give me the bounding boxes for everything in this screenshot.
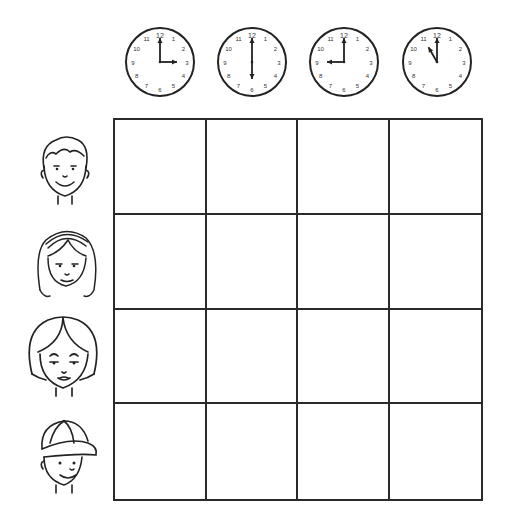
clock-number: 12 (433, 32, 441, 39)
face-boy-icon (30, 128, 100, 208)
grid-cell[interactable] (390, 404, 482, 499)
grid-cell[interactable] (115, 120, 207, 215)
clock-number: 12 (340, 32, 348, 39)
grid-cell[interactable] (207, 215, 299, 310)
grid-cell[interactable] (390, 215, 482, 310)
grid-cell[interactable] (207, 120, 299, 215)
grid-cell[interactable] (115, 310, 207, 405)
grid-cell[interactable] (390, 310, 482, 405)
answer-grid (113, 118, 483, 501)
clock-number: 11 (143, 36, 150, 42)
grid-cell[interactable] (390, 120, 482, 215)
grid-cell[interactable] (298, 215, 390, 310)
grid-cell[interactable] (207, 404, 299, 499)
face-girl-headband-icon (32, 222, 102, 304)
clock-number: 11 (420, 36, 427, 42)
face-boy-cap-icon (30, 413, 106, 497)
grid-cell[interactable] (115, 215, 207, 310)
clock-number: 10 (317, 46, 324, 52)
grid-cell[interactable] (298, 120, 390, 215)
clock-icon: 121234567891011 (401, 26, 473, 98)
grid-cell[interactable] (298, 310, 390, 405)
grid-cell[interactable] (298, 404, 390, 499)
grid-cell[interactable] (115, 404, 207, 499)
clock-icon: 121234567891011 (216, 26, 288, 98)
clock-number: 11 (235, 36, 242, 42)
clock-number: 10 (225, 46, 232, 52)
clock-number: 10 (410, 46, 417, 52)
clock-icon: 121234567891011 (308, 26, 380, 98)
clock-number: 12 (156, 32, 164, 39)
clock-number: 10 (133, 46, 140, 52)
clock-number: 11 (327, 36, 334, 42)
clock-number: 12 (248, 32, 256, 39)
grid-cell[interactable] (207, 310, 299, 405)
face-woman-icon (22, 312, 104, 398)
clock-icon: 121234567891011 (124, 26, 196, 98)
